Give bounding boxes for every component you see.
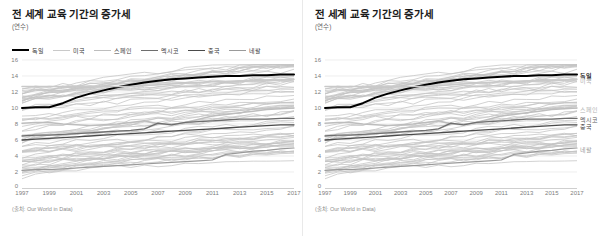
x-axis-tick-label: 1999 [344,190,357,196]
y-axis-tick-label: 12 [0,89,18,95]
page-title: 전 세계 교육 기간의 증가세 [12,6,131,21]
series-end-label-스페인[interactable]: 스페인 [580,105,598,114]
y-axis-tick-label: 8 [303,121,321,127]
y-axis-tick-label: 12 [303,89,321,95]
x-axis-tick-label: 2015 [260,190,273,196]
plot-area-right [325,60,577,188]
x-axis-tick-label: 2005 [419,190,432,196]
x-axis-tick-label: 2009 [470,190,483,196]
x-axis-tick-label: 2007 [444,190,457,196]
legend-item[interactable]: 네팔 [229,46,261,55]
x-axis-tick-label: 2013 [233,190,246,196]
legend-label: 독일 [32,46,44,55]
y-axis-tick-label: 14 [303,73,321,79]
series-end-label-미국[interactable]: 미국 [580,76,592,85]
legend-item[interactable]: 스페인 [94,46,132,55]
x-axis-tick-label: 1997 [318,190,331,196]
y-axis-tick-zero: 0 [303,183,321,189]
y-axis-tick-label: 6 [0,137,18,143]
y-axis-tick-label: 10 [0,105,18,111]
y-axis-tick-label: 4 [0,153,18,159]
y-axis-tick-label: 10 [303,105,321,111]
chart-subtitle: (연수) [315,21,331,31]
legend-label: 스페인 [114,46,132,55]
legend-swatch-icon [141,50,158,51]
chart-panel-right: 전 세계 교육 기간의 증가세 (연수) 246810121416 0 1997… [302,0,604,236]
legend-item[interactable]: 독일 [12,46,44,55]
y-axis-tick-zero: 0 [0,183,18,189]
x-axis-tick-label: 1999 [43,190,56,196]
x-axis-tick-label: 2005 [124,190,137,196]
series-end-label-네팔[interactable]: 네팔 [580,145,592,154]
legend-swatch-icon [229,50,246,51]
series-end-label-중국[interactable]: 중국 [580,121,592,130]
y-axis-tick-label: 6 [303,137,321,143]
x-axis-tick-label: 2003 [97,190,110,196]
source-note: (출처: Our World in Data) [12,205,73,213]
x-axis-tick-label: 1997 [15,190,28,196]
x-axis-tick-label: 2001 [70,190,83,196]
x-axis-line [22,188,294,189]
y-axis-tick-label: 14 [0,73,18,79]
x-axis-tick-label: 2009 [179,190,192,196]
legend-label: 미국 [73,46,85,55]
legend-item[interactable]: 중국 [188,46,220,55]
y-axis-tick-label: 2 [0,169,18,175]
chart-panel-left: 전 세계 교육 기간의 증가세 (연수) 독일미국스페인멕시코중국네팔 2468… [0,0,302,236]
x-axis-tick-label: 2011 [206,190,219,196]
legend-label: 중국 [208,46,220,55]
legend-item[interactable]: 미국 [53,46,85,55]
source-note: (출처: Our World in Data) [315,205,376,213]
page-title: 전 세계 교육 기간의 증가세 [315,6,434,21]
y-axis-tick-label: 8 [0,121,18,127]
x-axis-tick-label: 2015 [545,190,558,196]
legend-label: 네팔 [249,46,261,55]
legend-swatch-icon [94,50,111,51]
chart-legend-top: 독일미국스페인멕시코중국네팔 [12,44,294,56]
x-axis-tick-label: 2011 [495,190,508,196]
legend-label: 멕시코 [161,46,179,55]
x-axis-tick-label: 2001 [369,190,382,196]
x-axis-tick-label: 2007 [151,190,164,196]
legend-item[interactable]: 멕시코 [141,46,179,55]
x-axis-tick-label: 2017 [287,190,300,196]
legend-swatch-icon [188,50,205,51]
series-end-labels: 독일미국스페인멕시코중국네팔 [580,0,604,236]
figure-container: 전 세계 교육 기간의 증가세 (연수) 독일미국스페인멕시코중국네팔 2468… [0,0,604,236]
y-axis-tick-label: 16 [303,57,321,63]
plot-area-left [22,60,294,188]
legend-swatch-icon [53,50,70,51]
y-axis-tick-label: 16 [0,57,18,63]
x-axis-tick-label: 2013 [520,190,533,196]
y-axis-tick-label: 4 [303,153,321,159]
x-axis-line [325,188,577,189]
legend-swatch-icon [12,49,29,51]
x-axis-tick-label: 2003 [394,190,407,196]
chart-subtitle: (연수) [12,21,28,31]
y-axis-tick-label: 2 [303,169,321,175]
